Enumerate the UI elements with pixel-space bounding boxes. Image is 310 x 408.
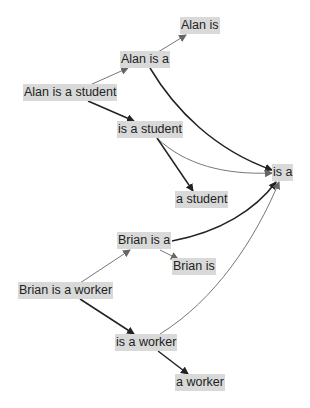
node-brian-is: Brian is (172, 258, 216, 275)
edge-is-a-worker-to-a-worker (158, 351, 188, 374)
node-brian-is-a: Brian is a (117, 232, 171, 249)
node-a-worker: a worker (175, 374, 225, 391)
edge-alan-is-a-to-alan-is (158, 35, 186, 52)
edge-is-a-student-to-a-student (157, 138, 193, 191)
edge-alan-student-to-alan-is-a (90, 68, 128, 85)
node-is-a-student: is a student (117, 121, 183, 138)
node-a-student: a student (175, 191, 228, 208)
node-alan-is: Alan is (180, 17, 220, 34)
node-alan-is-a-student: Alan is a student (23, 84, 117, 101)
edge-brian-worker-to-brian-is-a (80, 250, 130, 283)
edge-alan-student-to-is-a-student (88, 101, 134, 121)
node-is-a: is a (272, 164, 293, 181)
node-is-a-worker: is a worker (115, 334, 177, 351)
edge-brian-worker-to-is-a-worker (80, 299, 134, 334)
edge-is-a-student-to-is-a (157, 138, 272, 173)
node-brian-is-a-worker: Brian is a worker (18, 282, 113, 299)
node-alan-is-a: Alan is a (120, 51, 170, 68)
